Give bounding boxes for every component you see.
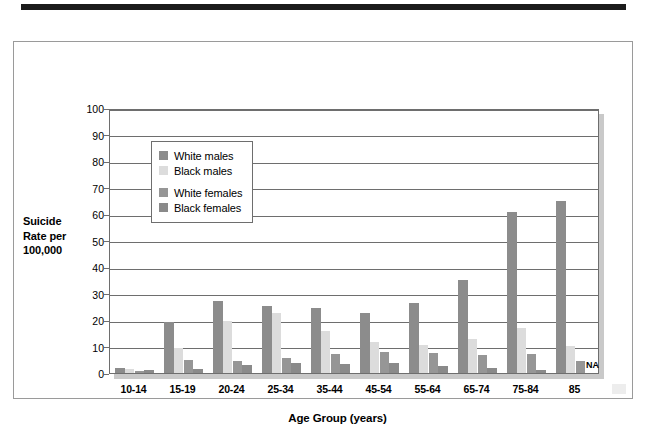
bar-group: NA xyxy=(551,110,600,373)
x-axis-category-label: 75-84 xyxy=(501,383,550,395)
bar xyxy=(419,345,429,373)
bar xyxy=(262,306,272,373)
bar xyxy=(125,369,135,373)
bar xyxy=(242,365,252,373)
legend-item-label: White males xyxy=(174,150,233,162)
x-axis-category-label: 65-74 xyxy=(452,383,501,395)
x-axis-category-label: 25-34 xyxy=(256,383,305,395)
bar xyxy=(556,201,566,373)
bar xyxy=(174,348,184,373)
y-axis-tick-label: 60 xyxy=(70,209,104,221)
bar xyxy=(429,353,439,373)
legend-item-label: Black males xyxy=(174,165,232,177)
x-axis-category-label: 55-64 xyxy=(403,383,452,395)
bar xyxy=(144,370,154,373)
x-axis-category-label: 35-44 xyxy=(305,383,354,395)
bar xyxy=(507,212,517,373)
x-axis-category-labels: 10-1415-1920-2425-3435-4445-5455-6465-74… xyxy=(109,383,599,399)
y-axis-tick-label: 10 xyxy=(70,342,104,354)
legend-item-label: White females xyxy=(174,187,242,199)
y-axis-tick-label: 30 xyxy=(70,289,104,301)
bar xyxy=(468,339,478,373)
bar-group xyxy=(257,110,306,373)
bar xyxy=(458,280,468,373)
bar xyxy=(487,368,497,373)
y-axis-tick-label: 20 xyxy=(70,315,104,327)
legend-swatch-icon xyxy=(159,203,168,212)
bar xyxy=(389,363,399,373)
figure-container: Suicide Rate per 100,000 010203040506070… xyxy=(13,41,633,399)
legend-item: White females xyxy=(159,185,242,200)
x-axis-category-label: 10-14 xyxy=(109,383,158,395)
bar xyxy=(135,371,145,373)
legend-item: White males xyxy=(159,148,242,163)
legend-item: Black males xyxy=(159,163,242,178)
y-axis-tick-label: 100 xyxy=(70,103,104,115)
bar xyxy=(478,355,488,373)
bar-group xyxy=(355,110,404,373)
bar xyxy=(380,352,390,373)
bar-group xyxy=(453,110,502,373)
bar xyxy=(282,358,292,373)
bar xyxy=(331,354,341,373)
x-axis-category-label: 45-54 xyxy=(354,383,403,395)
bar xyxy=(340,364,350,373)
legend-item-label: Black females xyxy=(174,202,241,214)
legend-swatch-icon xyxy=(159,151,168,160)
legend-item: Black females xyxy=(159,200,242,215)
y-axis-tick-label: 70 xyxy=(70,183,104,195)
y-axis-tick-label: 50 xyxy=(70,236,104,248)
y-axis-tick-label: 40 xyxy=(70,262,104,274)
na-annotation: NA xyxy=(586,360,599,370)
bar xyxy=(576,361,586,373)
y-axis-tick-label: 80 xyxy=(70,156,104,168)
x-axis-title: Age Group (years) xyxy=(14,412,647,424)
legend-spacer xyxy=(159,178,242,185)
x-axis-category-label: 85 xyxy=(550,383,599,395)
bar xyxy=(311,308,321,373)
bar-group xyxy=(502,110,551,373)
bar xyxy=(115,368,125,373)
bar xyxy=(517,328,527,373)
bar-group xyxy=(306,110,355,373)
y-axis-tick-labels: 0102030405060708090100 xyxy=(68,109,104,374)
bar xyxy=(566,346,576,373)
bar xyxy=(370,342,380,373)
scan-artifact xyxy=(612,384,626,394)
bar xyxy=(164,322,174,373)
bar xyxy=(233,361,243,373)
x-axis-category-label: 20-24 xyxy=(207,383,256,395)
chart-legend: White malesBlack malesWhite femalesBlack… xyxy=(151,141,253,223)
y-axis-tick-label: 0 xyxy=(70,368,104,380)
bar xyxy=(438,366,448,373)
bar xyxy=(291,363,301,373)
y-axis-tick-label: 90 xyxy=(70,130,104,142)
bar-group xyxy=(404,110,453,373)
bar xyxy=(360,313,370,373)
x-axis-category-label: 15-19 xyxy=(158,383,207,395)
bar xyxy=(409,303,419,373)
bar xyxy=(272,313,282,373)
bar xyxy=(321,331,331,373)
legend-swatch-icon xyxy=(159,188,168,197)
bar xyxy=(536,370,546,373)
bar xyxy=(193,369,203,373)
bar xyxy=(184,360,194,374)
bar xyxy=(223,321,233,373)
bar xyxy=(527,354,537,373)
bar xyxy=(213,301,223,373)
top-rule-divider xyxy=(21,4,626,10)
legend-swatch-icon xyxy=(159,166,168,175)
